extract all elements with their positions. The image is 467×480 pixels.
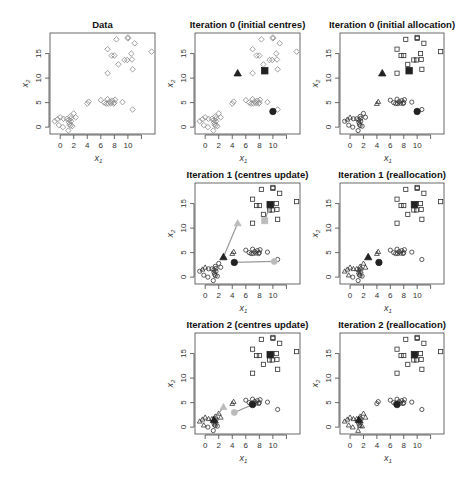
- y-axis-label-sub: 2: [25, 79, 31, 84]
- data-point: [418, 351, 422, 355]
- data-point: [259, 37, 265, 43]
- data-point: [276, 367, 280, 371]
- x-tick-label: 4: [85, 141, 90, 150]
- panel-title: Iteration 1 (centres update): [187, 169, 309, 180]
- y-axis: 051015: [179, 199, 194, 280]
- data-points: [342, 185, 442, 282]
- data-point: [419, 57, 423, 61]
- data-point: [414, 208, 418, 212]
- x-axis-label-sub: 1: [99, 158, 102, 164]
- data-point: [439, 200, 443, 204]
- y-tick-label: 15: [324, 349, 333, 358]
- data-point: [274, 351, 278, 355]
- x-axis: 0246810: [58, 135, 142, 150]
- data-point: [356, 278, 360, 282]
- panel-data: Data0246810x1051015x2: [20, 19, 155, 164]
- x-tick-label: 8: [402, 291, 407, 300]
- y-tick-label: 10: [179, 373, 188, 382]
- data-point: [356, 428, 361, 432]
- x-axis: 0246810: [203, 435, 287, 450]
- data-point: [420, 367, 424, 371]
- data-point: [439, 350, 443, 354]
- data-point: [270, 358, 274, 362]
- data-point: [259, 337, 263, 341]
- data-point: [395, 371, 399, 375]
- data-point: [265, 250, 269, 254]
- centre-circle: [270, 108, 276, 114]
- data-point: [116, 62, 122, 68]
- y-tick-label: 5: [324, 250, 333, 255]
- data-point: [402, 53, 406, 57]
- data-point: [265, 400, 269, 404]
- x-axis: 0246810: [348, 135, 431, 150]
- data-point: [414, 358, 418, 362]
- panel-iter0-centres: Iteration 0 (initial centres)0246810x105…: [165, 19, 305, 164]
- x-tick-label: 8: [257, 291, 262, 300]
- data-point: [265, 99, 271, 105]
- data-point: [420, 257, 424, 261]
- data-point: [412, 208, 416, 212]
- data-point: [73, 115, 79, 121]
- data-point: [219, 265, 223, 269]
- y-axis: 051015: [324, 199, 339, 280]
- data-point: [402, 353, 406, 357]
- y-tick-label: 15: [179, 349, 188, 358]
- data-point: [420, 217, 424, 221]
- x-tick-label: 4: [375, 291, 380, 300]
- x-tick-label: 10: [268, 441, 277, 450]
- y-axis: 051015: [179, 49, 194, 130]
- data-point: [257, 353, 261, 357]
- old-centre-triangle: [220, 404, 227, 410]
- y-tick-label: 5: [179, 250, 188, 255]
- data-point: [414, 58, 418, 62]
- data-point: [361, 261, 366, 265]
- y-axis-label: x2: [20, 79, 31, 89]
- data-point: [361, 411, 366, 415]
- data-point: [274, 51, 280, 57]
- data-point: [402, 203, 406, 207]
- x-tick-label: 2: [216, 441, 221, 450]
- centre-square: [411, 201, 417, 207]
- data-point: [255, 353, 259, 357]
- data-point: [270, 208, 274, 212]
- data-point: [395, 197, 399, 201]
- data-point: [205, 124, 211, 130]
- kmeans-figure: Data0246810x1051015x2Iteration 0 (initia…: [0, 0, 467, 480]
- old-centre-circle: [271, 258, 277, 264]
- x-tick-label: 10: [413, 441, 422, 450]
- data-point: [410, 100, 414, 104]
- centre-moves: [220, 201, 277, 265]
- x-tick-label: 2: [361, 291, 366, 300]
- data-point: [419, 207, 423, 211]
- y-tick-label: 5: [179, 100, 188, 105]
- panel-iter2-realloc: Iteration 2 (reallocation)0246810x105101…: [310, 319, 446, 464]
- y-tick-label: 10: [324, 73, 333, 82]
- centres: [234, 68, 276, 115]
- y-axis-label-sub: 2: [315, 79, 321, 84]
- data-point: [399, 203, 403, 207]
- x-tick-label: 0: [348, 291, 353, 300]
- data-point: [218, 115, 224, 121]
- x-tick-label: 10: [413, 291, 422, 300]
- old-centre-square: [262, 218, 268, 224]
- data-point: [399, 53, 403, 57]
- data-point: [250, 221, 254, 225]
- data-point: [439, 50, 443, 54]
- y-axis-label: x2: [310, 79, 321, 89]
- y-axis: 051015: [324, 349, 339, 430]
- x-tick-label: 6: [388, 441, 393, 450]
- data-point: [217, 261, 221, 265]
- data-point: [275, 357, 279, 361]
- y-tick-label: 10: [179, 223, 188, 232]
- data-point: [259, 187, 263, 191]
- data-point: [130, 107, 136, 113]
- centre-square: [406, 68, 412, 74]
- data-point: [275, 207, 279, 211]
- x-tick-label: 6: [99, 141, 104, 150]
- data-point: [404, 37, 408, 41]
- centre-triangle: [379, 70, 386, 76]
- data-point: [250, 46, 256, 52]
- x-tick-label: 4: [230, 291, 235, 300]
- data-points: [198, 185, 299, 282]
- data-point: [419, 357, 423, 361]
